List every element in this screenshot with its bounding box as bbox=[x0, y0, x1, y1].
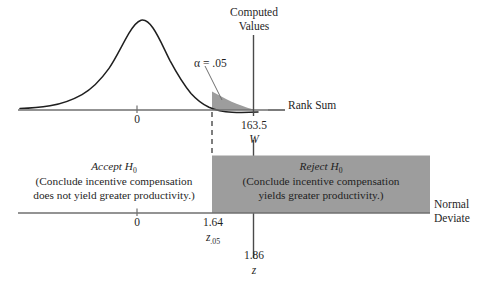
accept-region-line-2: (Conclude incentive compensation bbox=[33, 175, 194, 188]
z-critical-subscript: .05 bbox=[210, 237, 220, 246]
computed-values-line-2: Values bbox=[230, 20, 278, 34]
accept-region-line-3: does not yield greater productivity.) bbox=[33, 189, 194, 202]
normal-deviate-axis-label: Normal Deviate bbox=[434, 198, 470, 225]
rank-sum-statistic-symbol: W bbox=[249, 133, 259, 147]
test-statistic-value-label: 1.86 bbox=[244, 249, 264, 263]
alpha-tail-shaded-region bbox=[212, 92, 254, 110]
computed-values-label: Computed Values bbox=[230, 6, 278, 33]
normal-deviate-line-1: Normal bbox=[434, 198, 470, 212]
reject-h0-subscript: 0 bbox=[339, 166, 343, 175]
accept-h0-subscript: 0 bbox=[133, 166, 137, 175]
alpha-annotation-label: α = .05 bbox=[194, 57, 227, 71]
rank-sum-axis-label: Rank Sum bbox=[288, 99, 336, 113]
computed-values-line-1: Computed bbox=[230, 6, 278, 20]
reject-region-line-2: (Conclude incentive compensation bbox=[243, 175, 400, 188]
rank-sum-zero-label: 0 bbox=[134, 113, 140, 127]
test-statistic-symbol: z bbox=[252, 264, 256, 278]
figure-drawing bbox=[0, 0, 491, 286]
statistics-figure: Computed Values α = .05 Rank Sum 0 163.5… bbox=[0, 0, 491, 286]
rank-sum-critical-value-label: 163.5 bbox=[241, 119, 267, 133]
accept-region-line-1: Accept H0 bbox=[33, 160, 194, 175]
normal-deviate-zero-label: 0 bbox=[134, 216, 140, 230]
reject-region-line-3: yields greater productivity.) bbox=[243, 189, 400, 202]
reject-region-line-1: Reject H0 bbox=[243, 160, 400, 175]
reject-h0-text: Reject H bbox=[299, 160, 338, 172]
normal-deviate-critical-symbol: z.05 bbox=[206, 231, 220, 247]
normal-deviate-critical-value-label: 1.64 bbox=[203, 216, 223, 230]
accept-region-text: Accept H0 (Conclude incentive compensati… bbox=[33, 160, 194, 202]
reject-region-text: Reject H0 (Conclude incentive compensati… bbox=[243, 160, 400, 202]
accept-h0-text: Accept H bbox=[91, 160, 133, 172]
normal-deviate-line-2: Deviate bbox=[434, 212, 470, 226]
